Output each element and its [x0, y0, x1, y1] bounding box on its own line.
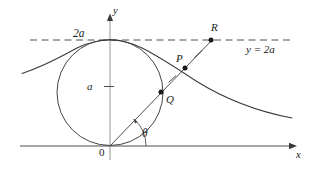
- label-asymptote-equation: y = 2a: [246, 44, 275, 55]
- label-a: a: [87, 81, 93, 92]
- figure-container: 2a y x a 0 P Q R θ y = 2a: [0, 0, 314, 174]
- label-y-axis: y: [113, 6, 118, 17]
- x-axis: [20, 143, 297, 149]
- point-Q: [159, 90, 164, 95]
- label-point-R: R: [211, 22, 218, 33]
- point-R: [209, 38, 214, 43]
- point-P: [183, 66, 188, 71]
- label-2a: 2a: [73, 28, 85, 40]
- label-x-axis: x: [296, 150, 301, 161]
- label-origin: 0: [99, 147, 105, 158]
- label-theta: θ: [142, 128, 148, 140]
- label-point-P: P: [176, 53, 183, 64]
- geometry-diagram: [0, 0, 314, 174]
- label-point-Q: Q: [166, 94, 174, 105]
- congruence-tick-upper: [195, 51, 203, 58]
